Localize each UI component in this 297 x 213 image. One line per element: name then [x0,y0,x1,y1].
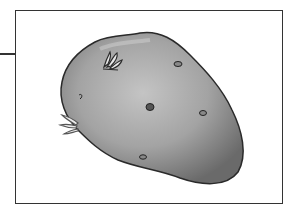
potato-eye-icon [140,155,147,159]
potato-illustration [0,0,297,213]
potato-icon [60,32,243,183]
potato-eye-icon [174,62,182,67]
potato-eye-icon [146,104,154,111]
potato-eye-icon [200,111,207,116]
